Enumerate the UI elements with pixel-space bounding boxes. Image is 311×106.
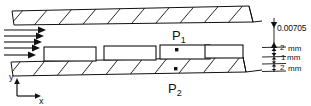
dimension-upper-layer-unit: mm bbox=[288, 45, 301, 53]
coordinate-axes bbox=[14, 78, 41, 99]
probe-p2-marker bbox=[174, 67, 177, 70]
inlet-arrow-5 bbox=[4, 52, 36, 59]
y-axis-label: y bbox=[9, 73, 14, 82]
probe-p2-letter: P bbox=[168, 81, 177, 96]
inlet-arrow-3 bbox=[4, 39, 42, 46]
probe-p1-letter: P bbox=[172, 28, 181, 43]
dimension-middle-layer-value: 1 bbox=[281, 54, 285, 62]
obstacle-4 bbox=[205, 45, 243, 58]
x-axis-label: x bbox=[39, 97, 44, 106]
top-wall bbox=[6, 2, 270, 30]
probe-p2-subscript: 2 bbox=[177, 88, 182, 98]
schematic-drawing bbox=[0, 0, 311, 106]
dimension-middle-layer-unit: mm bbox=[287, 54, 300, 62]
probe-p1-marker bbox=[175, 48, 178, 51]
inlet-arrow-2 bbox=[4, 33, 44, 40]
probe-p1-label: P1 bbox=[172, 29, 186, 45]
inlet-velocity-arrows bbox=[4, 27, 46, 59]
inlet-arrow-1 bbox=[4, 27, 46, 34]
y-axis bbox=[14, 78, 20, 96]
obstacle-3 bbox=[160, 45, 210, 59]
probe-p2-label: P2 bbox=[168, 82, 182, 98]
dimension-gap-label: 0.00705 bbox=[277, 24, 306, 33]
obstacle-1 bbox=[44, 47, 96, 61]
dimension-lower-layer-unit: mm bbox=[288, 65, 301, 73]
probe-p1-subscript: 1 bbox=[181, 35, 186, 45]
obstacle-2 bbox=[104, 46, 156, 60]
channel-cross-section-figure: 0.00705 2 mm 1 mm 2 mm P1 P2 y x bbox=[0, 0, 311, 106]
dimension-upper-layer-value: 2 bbox=[280, 44, 284, 52]
x-axis bbox=[17, 93, 41, 99]
dimension-lower-layer-value: 2 bbox=[280, 64, 284, 72]
inlet-arrow-4 bbox=[4, 45, 40, 52]
